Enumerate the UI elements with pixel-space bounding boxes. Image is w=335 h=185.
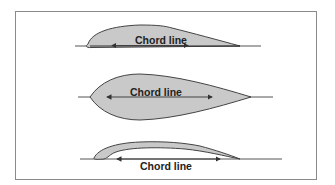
chord-line-label: Chord line [140, 161, 192, 172]
airfoil-shape [94, 142, 240, 160]
chord-line-label: Chord line [135, 35, 187, 46]
chord-line-label: Chord line [130, 87, 182, 98]
highly-cambered-airfoil [80, 142, 282, 160]
